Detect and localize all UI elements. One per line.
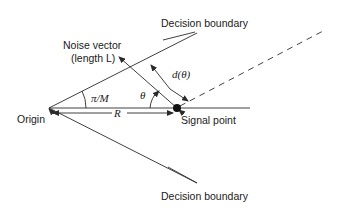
radius-label: R: [113, 107, 121, 119]
bottom-boundary-label: Decision boundary: [161, 190, 249, 202]
psk-decision-region-diagram: Decision boundary Decision boundary Nois…: [0, 0, 344, 216]
noise-vector-label-line2: (length L): [71, 52, 115, 64]
signal-point-label: Signal point: [181, 114, 236, 126]
noise-vector-arrow: [119, 57, 177, 108]
signal-point-dot: [173, 104, 181, 112]
top-boundary-label: Decision boundary: [161, 17, 249, 29]
lower-decision-boundary: [49, 108, 197, 183]
distance-label: d(θ): [172, 68, 191, 81]
angle-pi-over-m-label: π/M: [91, 92, 110, 104]
bottom-boundary-leader: [168, 167, 197, 183]
dashed-extension-line: [180, 30, 325, 106]
distance-arrow: [151, 65, 170, 89]
origin-label: Origin: [17, 113, 45, 125]
noise-vector-label-line1: Noise vector: [63, 39, 122, 51]
angle-theta-label: θ: [140, 89, 146, 101]
angle-arc-pi-over-m: [82, 91, 86, 108]
distance-arrow-lower: [170, 89, 188, 101]
theta-arc-arrow: [154, 91, 159, 96]
